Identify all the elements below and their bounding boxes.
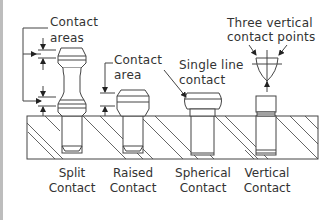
contact-types-diagram: Contact areas Contact area Single line c… [0,0,330,220]
caption-spherical-2: Contact [180,181,227,195]
callout-three-points-2: contact points [227,30,315,44]
caption-vertical-1: Vertical [245,166,290,180]
raised-contact-pin [117,90,149,116]
caption-split-1: Split [59,166,86,180]
callout-contact-area-1: Contact [114,53,162,67]
callout-contact-areas-1: Contact [50,15,98,29]
callout-single-line-1: Single line [179,58,244,72]
vertical-contact-pin [256,96,276,116]
callout-contact-areas-2: areas [50,31,84,45]
callout-three-points-1: Three vertical [226,16,313,30]
raised-contact-dimensions [100,63,115,116]
three-point-symbol [249,45,287,92]
caption-raised-1: Raised [113,166,153,180]
caption-raised-2: Contact [110,181,157,195]
caption-spherical-1: Spherical [175,166,231,180]
caption-vertical-2: Contact [244,181,291,195]
callout-single-line-2: contact [179,73,225,87]
caption-split-2: Contact [49,181,96,195]
spherical-contact-pin [184,93,222,116]
split-contact-pin [58,48,86,116]
callout-contact-area-2: area [114,68,142,82]
